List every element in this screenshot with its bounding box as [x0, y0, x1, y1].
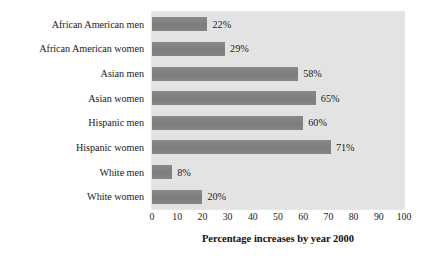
bar-row: 20% [152, 190, 404, 204]
x-tick-label: 0 [150, 211, 155, 223]
category-label: Asian men [101, 68, 148, 79]
category-label: African American women [39, 43, 148, 54]
bar [152, 17, 207, 31]
bar-series: 22% 29% 58% 65% 60% 71% [152, 12, 404, 209]
bar-row: 8% [152, 165, 404, 179]
bar [152, 190, 202, 204]
x-tick-label: 20 [197, 211, 207, 223]
x-tick-label: 30 [223, 211, 233, 223]
category-label: White women [87, 191, 148, 202]
bar-value-label: 20% [207, 191, 226, 202]
bar-value-label: 58% [303, 68, 322, 79]
bar-chart: African American men African American wo… [0, 0, 431, 261]
x-tick-label: 40 [248, 211, 258, 223]
bar-value-label: 60% [308, 117, 327, 128]
category-label: Hispanic women [76, 142, 148, 153]
bar-row: 60% [152, 116, 404, 130]
category-label: Hispanic men [88, 117, 148, 128]
bar-row: 71% [152, 140, 404, 154]
bar [152, 140, 331, 154]
bar-value-label: 71% [336, 142, 355, 153]
bar [152, 116, 303, 130]
bar-row: 29% [152, 42, 404, 56]
x-tick-label: 100 [397, 211, 412, 223]
x-tick-label: 50 [273, 211, 283, 223]
bar-value-label: 29% [230, 43, 249, 54]
bar-value-label: 65% [321, 93, 340, 104]
x-tick-label: 70 [323, 211, 333, 223]
x-tick-label: 90 [374, 211, 384, 223]
bar [152, 42, 225, 56]
category-label: White men [99, 167, 148, 178]
bar [152, 67, 298, 81]
bar-value-label: 22% [212, 19, 231, 30]
bar-row: 22% [152, 17, 404, 31]
bar [152, 91, 316, 105]
category-label: African American men [52, 19, 148, 30]
x-tick-label: 80 [349, 211, 359, 223]
x-axis-ticks: 0102030405060708090100 [152, 211, 404, 225]
bar-row: 65% [152, 91, 404, 105]
bar-value-label: 8% [177, 167, 191, 178]
x-tick-label: 60 [298, 211, 308, 223]
bar-row: 58% [152, 67, 404, 81]
category-axis-labels: African American men African American wo… [0, 12, 148, 209]
plot-area: 22% 29% 58% 65% 60% 71% [152, 12, 404, 209]
x-tick-label: 10 [172, 211, 182, 223]
bar [152, 165, 172, 179]
x-axis-title: Percentage increases by year 2000 [152, 232, 404, 245]
category-label: Asian women [88, 93, 148, 104]
